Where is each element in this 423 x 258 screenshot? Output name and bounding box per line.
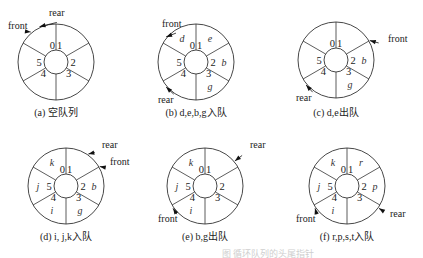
slot-divider: [215, 167, 238, 180]
slot-index-3: 3: [66, 68, 71, 79]
rear-pointer-label: rear: [296, 92, 312, 103]
panel-caption-e: (e) b,g出队: [182, 230, 228, 243]
queue-element-b: b: [222, 57, 227, 68]
queue-element-i: i: [190, 205, 193, 216]
slot-index-2: 2: [361, 181, 366, 192]
queue-panel-d: 012345kbgijrearfront(d) i, j,k入队: [28, 139, 130, 243]
slot-index-2: 2: [210, 57, 215, 68]
queue-element-g: g: [208, 81, 213, 92]
circular-queue-figure: 012345frontrear(a) 空队列012345debgfrontrea…: [0, 0, 423, 258]
queue-element-i: i: [51, 205, 54, 216]
slot-index-4: 4: [181, 68, 187, 79]
front-pointer-label: front: [8, 20, 28, 31]
slot-index-3: 3: [76, 192, 81, 203]
queue-element-j: j: [174, 181, 179, 192]
slot-index-4: 4: [41, 68, 47, 79]
slot-index-4: 4: [190, 192, 196, 203]
rear-pointer-label: rear: [158, 94, 174, 105]
slot-divider: [76, 167, 99, 180]
slot-divider: [303, 41, 326, 54]
inner-ring: [54, 174, 78, 198]
slot-index-1: 1: [206, 164, 211, 175]
slot-index-0: 0: [190, 40, 195, 51]
queue-element-i: i: [332, 205, 335, 216]
slot-index-1: 1: [197, 40, 202, 51]
inner-ring: [324, 48, 348, 72]
queue-panel-f: 012345krpijfrontrear(f) r,p,s,t入队: [296, 148, 406, 243]
queue-element-d: d: [180, 33, 186, 44]
slot-index-3: 3: [215, 192, 220, 203]
slot-index-0: 0: [199, 164, 204, 175]
front-pointer-label: front: [388, 33, 408, 44]
rear-arrow-icon: [88, 150, 94, 154]
panel-caption-d: (d) i, j,k入队: [40, 230, 92, 243]
rear-arrow-icon: [40, 23, 46, 27]
slot-divider: [206, 43, 229, 56]
inner-ring: [335, 174, 359, 198]
slot-divider: [172, 167, 195, 180]
front-arrow-icon: [100, 165, 106, 169]
rear-arrow-icon: [235, 156, 241, 161]
front-pointer-label: front: [158, 213, 178, 224]
inner-ring: [44, 50, 68, 74]
slot-index-2: 2: [80, 181, 85, 192]
rear-pointer-label: rear: [49, 7, 65, 18]
queue-panel-a: 012345frontrear(a) 空队列: [8, 7, 94, 119]
rear-pointer-label: rear: [102, 139, 118, 150]
slot-index-0: 0: [330, 38, 335, 49]
front-pointer-label: front: [162, 18, 182, 29]
slot-index-3: 3: [346, 66, 351, 77]
inner-ring: [184, 50, 208, 74]
slot-index-5: 5: [46, 181, 51, 192]
rear-arrow-icon: [379, 208, 385, 213]
panel-caption-c: (c) d,e出队: [313, 106, 359, 119]
slot-index-4: 4: [332, 192, 338, 203]
slot-divider: [23, 43, 46, 56]
slot-index-2: 2: [350, 55, 355, 66]
panel-caption-a: (a) 空队列: [34, 106, 78, 119]
figure-caption: 图 循环队列的头尾指针: [222, 248, 314, 258]
queue-element-g: g: [348, 79, 353, 90]
slot-divider: [33, 167, 56, 180]
queue-panel-e: 012345kijrearfront(e) b,g出队: [158, 139, 266, 243]
queue-element-g: g: [78, 205, 83, 216]
slot-index-1: 1: [67, 164, 72, 175]
slot-index-1: 1: [57, 40, 62, 51]
slot-index-3: 3: [357, 192, 362, 203]
queue-element-k: k: [50, 157, 55, 168]
inner-ring: [193, 174, 217, 198]
slot-index-2: 2: [219, 181, 224, 192]
slot-index-0: 0: [341, 164, 346, 175]
slot-index-4: 4: [321, 66, 327, 77]
slot-index-5: 5: [327, 181, 332, 192]
queue-element-p: p: [372, 181, 378, 192]
queue-element-j: j: [316, 181, 321, 192]
queue-element-b: b: [92, 181, 97, 192]
slot-divider: [66, 43, 89, 56]
queue-element-k: k: [331, 157, 336, 168]
slot-index-1: 1: [348, 164, 353, 175]
queue-element-j: j: [35, 181, 40, 192]
queue-element-b: b: [362, 55, 367, 66]
slot-divider: [163, 43, 186, 56]
queue-panel-b: 012345debgfrontrear(b) d,e,b,g入队: [158, 18, 234, 119]
queue-element-e: e: [208, 33, 213, 44]
rear-pointer-label: rear: [390, 208, 406, 219]
queue-element-r: r: [359, 157, 363, 168]
front-pointer-label: front: [296, 213, 316, 224]
panel-caption-b: (b) d,e,b,g入队: [165, 106, 226, 119]
front-pointer-label: front: [110, 156, 130, 167]
slot-index-0: 0: [60, 164, 65, 175]
slot-divider: [314, 167, 337, 180]
queue-panel-c: 012345bgfrontrear(c) d,e出队: [296, 22, 408, 119]
slot-index-5: 5: [185, 181, 190, 192]
panel-caption-f: (f) r,p,s,t入队: [320, 230, 375, 243]
slot-index-2: 2: [70, 57, 75, 68]
slot-divider: [357, 167, 380, 180]
slot-index-3: 3: [206, 68, 211, 79]
slot-index-4: 4: [51, 192, 57, 203]
slot-index-1: 1: [337, 38, 342, 49]
slot-index-5: 5: [316, 55, 321, 66]
slot-index-5: 5: [176, 57, 181, 68]
slot-divider: [346, 41, 369, 54]
